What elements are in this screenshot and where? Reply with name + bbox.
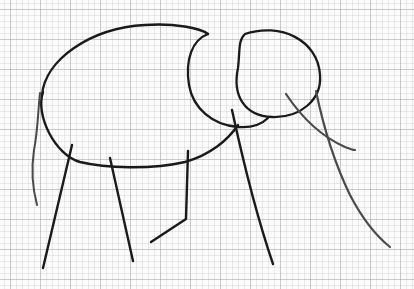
graph-paper [0, 0, 414, 289]
head-circle-front-stroke [237, 30, 321, 117]
front-leg-under-head-stroke [232, 110, 273, 264]
trunk-stroke [286, 94, 355, 150]
tail-stroke [33, 93, 40, 205]
elephant-sketch [0, 0, 414, 289]
tusk-stroke [316, 91, 390, 247]
front-left-leg-stroke [43, 145, 72, 268]
front-right-leg-stroke [110, 158, 133, 261]
